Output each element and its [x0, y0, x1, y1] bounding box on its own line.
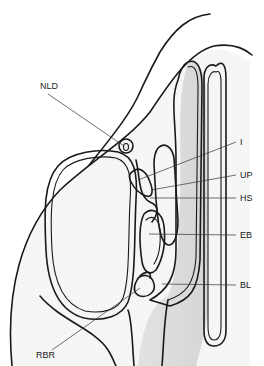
leader-nld — [48, 94, 124, 146]
label-hs: HS — [240, 193, 253, 203]
label-nld: NLD — [40, 81, 59, 91]
diagram-canvas: NLD I UP HS EB BL RBR — [0, 0, 264, 366]
label-i: I — [240, 137, 243, 147]
label-up: UP — [240, 170, 253, 180]
label-eb: EB — [240, 230, 252, 240]
anatomical-diagram: NLD I UP HS EB BL RBR — [0, 0, 264, 366]
label-bl: BL — [240, 280, 251, 290]
label-rbr: RBR — [36, 350, 56, 360]
